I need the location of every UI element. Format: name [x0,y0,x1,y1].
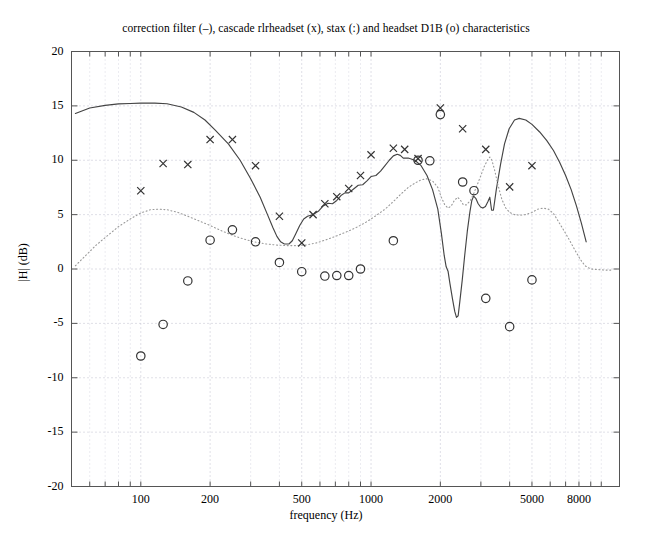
marker-x [160,160,167,167]
marker-o [482,294,490,302]
y-tick-label: 5 [30,207,64,222]
x-tick-label: 200 [180,492,240,507]
marker-x [345,185,352,192]
x-tick-label: 100 [111,492,171,507]
marker-o [389,237,397,245]
x-axis-label: frequency (Hz) [0,508,652,523]
y-tick-label: 15 [30,98,64,113]
y-tick-label: 10 [30,152,64,167]
x-tick-label: 8000 [549,492,609,507]
marker-o [228,226,236,234]
axis-ticks [72,52,620,487]
series-3 [137,110,537,360]
correction-filter-curve [75,103,586,317]
marker-x [184,161,191,168]
y-tick-label: -15 [30,424,64,439]
figure-container: correction filter (–), cascade rlrheadse… [0,0,652,547]
series-2 [137,104,535,246]
y-tick-label: -5 [30,315,64,330]
marker-o [426,157,434,165]
series-1 [75,157,612,270]
chart-title: correction filter (–), cascade rlrheadse… [0,22,652,34]
marker-x [482,146,489,153]
marker-x [252,162,259,169]
marker-x [229,136,236,143]
series-0 [75,103,586,317]
x-tick-label: 500 [272,492,332,507]
marker-x [401,146,408,153]
marker-x [276,213,283,220]
marker-x [207,136,214,143]
marker-o [159,320,167,328]
marker-o [458,178,466,186]
marker-o [321,272,329,280]
marker-x [357,172,364,179]
y-tick-label: 20 [30,44,64,59]
marker-x [459,125,466,132]
stax-curve [75,157,612,270]
y-tick-label: 0 [30,261,64,276]
x-tick-label: 1000 [341,492,401,507]
y-tick-label: -10 [30,370,64,385]
gridlines [72,52,620,487]
plot-area [0,0,652,547]
marker-x [390,145,397,152]
y-axis-label: |H| (dB) [16,218,31,308]
axes-frame [72,52,620,487]
y-tick-label: -20 [30,479,64,494]
marker-o [184,277,192,285]
x-tick-label: 2000 [410,492,470,507]
marker-o [333,271,341,279]
